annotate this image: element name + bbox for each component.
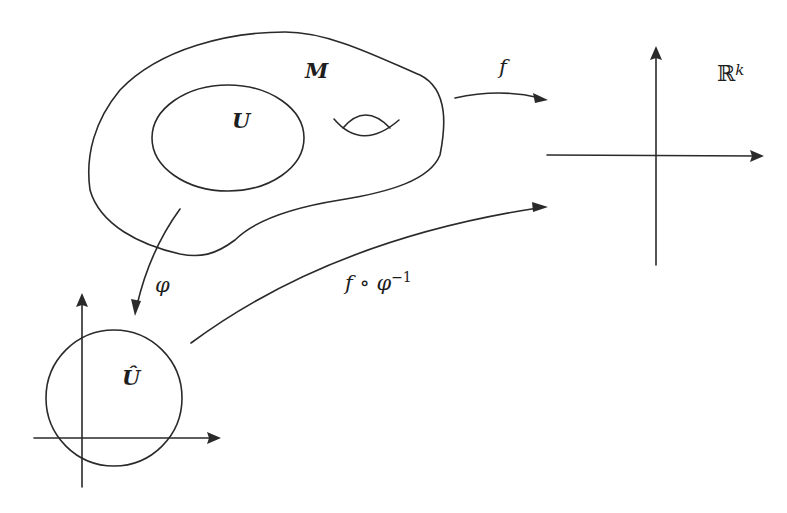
label-composite: f ∘ φ−1	[345, 270, 412, 294]
rk-x-axis	[547, 155, 760, 156]
rk-x-axis-head	[750, 150, 764, 162]
open-set-u-ellipse	[152, 85, 304, 191]
uhat-disk	[46, 330, 182, 466]
label-target-space: ℝk	[717, 63, 744, 85]
uhat-y-axis-head	[76, 293, 88, 307]
arrow-f	[455, 93, 540, 98]
label-map-f: f	[499, 57, 507, 78]
label-image-set-uhat: Û	[122, 367, 140, 388]
label-composite-base: f ∘ φ	[345, 271, 391, 295]
label-open-set-u: U	[232, 110, 250, 131]
label-manifold-m: M	[305, 60, 328, 81]
label-target-space-base: ℝ	[717, 61, 735, 86]
arrow-composite-head	[532, 202, 548, 212]
label-composite-exponent: −1	[391, 269, 412, 285]
manifold-m-outline	[89, 32, 444, 256]
label-chart-phi: φ	[155, 275, 170, 296]
arrow-phi-head	[131, 299, 141, 316]
arrow-f-head	[533, 93, 548, 103]
manifold-handle-upper	[343, 115, 390, 128]
rk-y-axis-head	[650, 46, 662, 60]
uhat-x-axis-head	[207, 432, 221, 444]
label-target-space-exponent: k	[735, 61, 744, 79]
manifold-diagram	[0, 0, 787, 513]
